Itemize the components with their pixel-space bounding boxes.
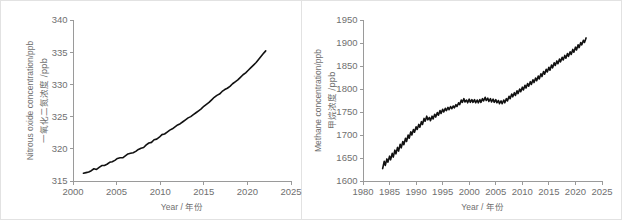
y-axis-title-cn: 甲烷浓度 /ppb [327, 72, 337, 130]
nitrous-oxide-chart: 3153203253303353402000200520102015202020… [1, 1, 302, 220]
x-tick-label: 2005 [106, 186, 127, 197]
chart-panel-methane: 1600165017001750180018501900195019801985… [302, 1, 621, 219]
x-tick-label: 2005 [485, 186, 506, 197]
y-tick-label: 325 [52, 111, 68, 122]
y-axis-title-en: Nitrous oxide concentration/ppb [25, 40, 35, 160]
x-tick-label: 1990 [406, 186, 427, 197]
x-tick-label: 2020 [565, 186, 586, 197]
y-tick-label: 1750 [336, 106, 357, 117]
x-tick-label: 2010 [150, 186, 171, 197]
y-axis-title-cn: 一氧化二氮浓度 /ppb [39, 58, 49, 143]
data-curve-0 [83, 51, 265, 173]
x-tick-label: 2015 [193, 186, 214, 197]
x-tick-label: 2000 [459, 186, 480, 197]
x-tick-label: 1980 [352, 186, 373, 197]
x-tick-label: 1995 [432, 186, 453, 197]
y-tick-label: 335 [52, 47, 68, 58]
y-tick-label: 1900 [336, 37, 357, 48]
y-axis-title-en: Methane concentration/ppb [313, 49, 323, 152]
y-tick-label: 1850 [336, 60, 357, 71]
x-tick-label: 1985 [379, 186, 400, 197]
y-tick-label: 1800 [336, 83, 357, 94]
data-curve-0 [383, 38, 586, 169]
x-axis-title: Year / 年份 [161, 202, 203, 212]
x-axis-title-cn: 年份 [486, 202, 504, 212]
x-axis-title-en: Year / [161, 202, 185, 212]
y-tick-label: 330 [52, 79, 68, 90]
x-tick-label: 2020 [237, 186, 258, 197]
chart-panel-nitrous-oxide: 3153203253303353402000200520102015202020… [1, 1, 302, 219]
methane-chart: 1600165017001750180018501900195019801985… [302, 1, 621, 220]
y-tick-label: 340 [52, 14, 68, 25]
x-tick-label: 2000 [62, 186, 83, 197]
y-tick-label: 1700 [336, 129, 357, 140]
y-tick-label: 1650 [336, 152, 357, 163]
x-tick-label: 2010 [512, 186, 533, 197]
figure-container: 3153203253303353402000200520102015202020… [0, 0, 622, 220]
x-tick-label: 2025 [591, 186, 612, 197]
y-tick-label: 320 [52, 143, 68, 154]
x-tick-label: 2015 [538, 186, 559, 197]
y-tick-label: 1950 [336, 14, 357, 25]
x-axis-title-cn: 年份 [185, 202, 203, 212]
x-tick-label: 2025 [280, 186, 301, 197]
x-axis-title-en: Year / [461, 202, 485, 212]
x-axis-title: Year / 年份 [461, 202, 503, 212]
